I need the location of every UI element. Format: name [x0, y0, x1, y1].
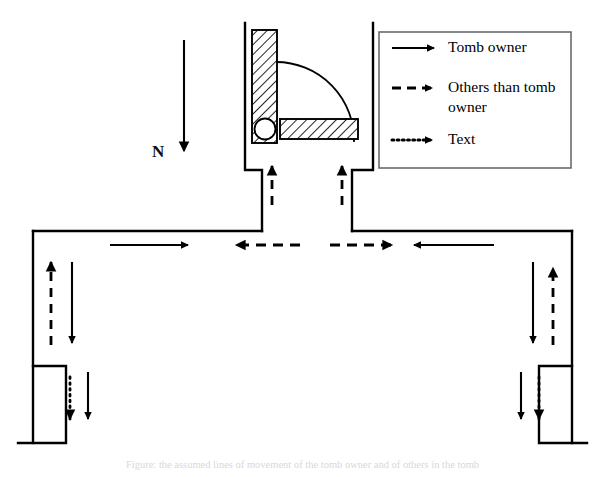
hatched-shrine-block [252, 30, 358, 143]
legend-label-tomb-owner: Tomb owner [448, 38, 527, 55]
legend-box: Tomb owner Others than tomb owner Text [379, 32, 571, 168]
movement-arrows-group [51, 166, 553, 419]
west-chamber-outline [18, 366, 66, 443]
shrine-horizontal-lintel [280, 119, 358, 139]
compass-north-label: N [152, 142, 165, 161]
east-chamber-outline [539, 366, 587, 443]
tomb-plan-drawing: N [0, 0, 601, 477]
tomb-plan-figure: N [0, 0, 601, 477]
legend-label-others-line2: owner [448, 98, 488, 115]
legend-label-others-line1: Others than tomb [448, 78, 556, 95]
compass-group: N [152, 40, 184, 161]
legend-label-text: Text [448, 130, 476, 147]
shrine-pivot-circle [255, 119, 276, 140]
figure-caption: Figure: the assumed lines of movement of… [55, 459, 550, 471]
